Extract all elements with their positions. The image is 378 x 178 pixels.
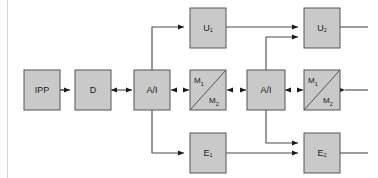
wire-ai2-to-u2 <box>266 37 298 70</box>
node-m1-m2-b[interactable]: M1 M2 <box>304 70 340 110</box>
node-ai-1[interactable]: A/I <box>134 70 170 110</box>
diagram-canvas: IPP D A/I M1 M2 A/I <box>0 0 378 178</box>
node-m1-m2-a[interactable]: M1 M2 <box>190 70 226 110</box>
node-ipp[interactable]: IPP <box>24 70 60 110</box>
node-e2[interactable]: E2 <box>304 133 340 173</box>
node-ai-1-label: A/I <box>146 85 157 95</box>
node-ipp-label: IPP <box>35 85 50 95</box>
node-u2[interactable]: U2 <box>304 8 340 48</box>
wire-ai2-to-e2 <box>266 110 298 143</box>
wire-ai1-to-e1 <box>152 110 184 153</box>
node-u1[interactable]: U1 <box>190 8 226 48</box>
node-e1[interactable]: E1 <box>190 133 226 173</box>
node-ai-2-label: A/I <box>260 85 271 95</box>
node-ai-2[interactable]: A/I <box>247 70 285 110</box>
block-diagram-figure: IPP D A/I M1 M2 A/I <box>0 0 378 178</box>
node-d[interactable]: D <box>75 70 111 110</box>
node-d-label: D <box>90 85 97 95</box>
wire-ai1-to-u1 <box>152 27 184 70</box>
